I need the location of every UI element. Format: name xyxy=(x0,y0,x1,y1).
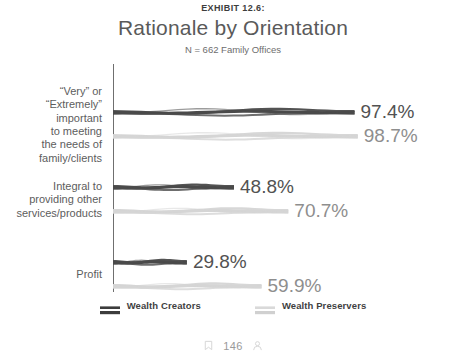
bar-wealth-preservers xyxy=(113,201,288,223)
legend-label: Wealth Creators xyxy=(127,300,201,311)
bar-value-label: 97.4% xyxy=(361,101,415,123)
footer-count: 146 xyxy=(223,340,242,352)
bar-wealth-creators xyxy=(113,177,234,199)
bar-wealth-creators xyxy=(113,252,187,274)
ribbon-swatch-icon xyxy=(100,301,120,310)
bar-value-label: 98.7% xyxy=(364,125,418,147)
bar-wealth-creators xyxy=(113,102,355,124)
ribbon-swatch-icon xyxy=(255,301,275,310)
person-icon[interactable] xyxy=(252,337,263,355)
category-axis-label: Integral toproviding otherservices/produ… xyxy=(0,180,102,220)
bar-value-label: 29.8% xyxy=(193,251,247,273)
bar-wealth-preservers xyxy=(113,276,262,298)
category-axis-label: “Very” or“Extremely”importantto meetingt… xyxy=(0,85,102,165)
legend-label: Wealth Preservers xyxy=(282,300,366,311)
chart-title: Rationale by Orientation xyxy=(0,16,466,40)
footer-bar: 146 xyxy=(0,337,466,355)
bookmark-icon[interactable] xyxy=(203,337,214,355)
bar-wealth-preservers xyxy=(113,126,358,148)
chart-plot-area: “Very” or“Extremely”importantto meetingt… xyxy=(0,64,466,292)
chart-legend: Wealth Creators Wealth Preservers xyxy=(0,300,466,311)
legend-item-wealth-preservers[interactable]: Wealth Preservers xyxy=(255,300,366,311)
exhibit-label: EXHIBIT 12.6: xyxy=(0,3,466,13)
chart-subtitle: N = 662 Family Offices xyxy=(0,44,466,55)
legend-item-wealth-creators[interactable]: Wealth Creators xyxy=(100,300,201,311)
category-axis-label: Profit xyxy=(0,268,102,281)
bar-value-label: 59.9% xyxy=(268,275,322,297)
bar-value-label: 48.8% xyxy=(240,176,294,198)
bar-value-label: 70.7% xyxy=(294,200,348,222)
